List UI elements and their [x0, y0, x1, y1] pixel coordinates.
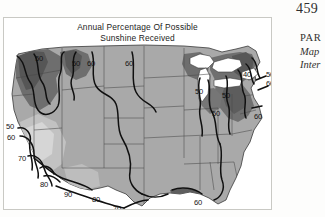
- book-page: Annual Percentage Of Possible Sunshine R…: [0, 0, 325, 217]
- contour-label: 70: [18, 154, 26, 163]
- contour-label: 50: [212, 109, 220, 118]
- contour-label: 60: [161, 207, 169, 210]
- contour-label: 60: [254, 112, 262, 121]
- contour-label: 70: [113, 204, 121, 210]
- contour-label: 50: [222, 91, 230, 100]
- part-heading: PAR: [300, 32, 325, 44]
- contour-label: 80: [40, 180, 48, 189]
- contour-label: 80: [92, 195, 100, 204]
- page-number: 459: [296, 1, 318, 17]
- contour-label: 50: [35, 54, 43, 63]
- section-heading-block: PAR Map Inter: [300, 32, 325, 71]
- contour-label: 60: [125, 59, 133, 68]
- contour-label: 40: [243, 70, 251, 79]
- map-figure: Annual Percentage Of Possible Sunshine R…: [3, 17, 272, 210]
- contour-label: 50: [72, 59, 80, 68]
- contour-label: 50: [195, 87, 203, 96]
- section-subtitle-line-2: Inter: [300, 59, 325, 71]
- contour-label: 60: [266, 79, 272, 88]
- contour-label: 50: [6, 122, 14, 131]
- contour-label: 60: [87, 59, 95, 68]
- contour-label: 60: [194, 198, 202, 207]
- contour-label: 50: [266, 70, 272, 79]
- contour-label: 60: [7, 133, 15, 142]
- section-subtitle-line-1: Map: [300, 46, 325, 58]
- contour-label: 90: [64, 190, 72, 199]
